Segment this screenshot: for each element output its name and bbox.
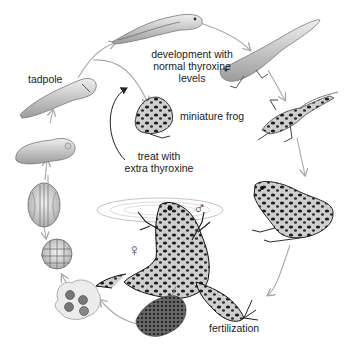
frog-life-cycle-diagram: tadpole development with normal thyroxin… <box>0 0 346 354</box>
arrow-older-to-legs <box>200 23 250 50</box>
stage-morula <box>42 239 72 269</box>
arrow-adult-to-mating <box>268 245 290 295</box>
label-treat-line1: treat with <box>120 150 198 162</box>
stage-neurula <box>28 183 60 227</box>
label-development: development with normal thyroxine levels <box>133 48 251 84</box>
stage-miniature-frog <box>135 97 172 138</box>
arrow-legs-to-froglet <box>268 70 285 100</box>
label-tadpole: tadpole <box>28 73 62 85</box>
arrow-neurula-to-early-tadpole <box>45 160 47 180</box>
arrow-froglet-to-adult <box>297 138 305 175</box>
arrow-eggmass-to-cleavage <box>100 300 140 325</box>
arrow-early-to-tadpole <box>50 110 53 123</box>
label-development-line3: levels <box>133 72 251 84</box>
arrow-tadpole-to-older <box>78 43 115 78</box>
stage-early-tadpole <box>16 138 75 163</box>
label-miniature-frog: miniature frog <box>180 110 244 122</box>
label-development-line2: normal thyroxine <box>133 60 251 72</box>
stage-adult-frog <box>252 181 333 242</box>
label-fertilization: fertilization <box>209 322 259 334</box>
male-symbol-icon: ♂ <box>193 200 206 217</box>
arrow-cleavage-to-morula <box>44 226 46 238</box>
female-symbol-icon: ♀ <box>128 242 141 259</box>
stage-older-tadpole <box>112 14 202 44</box>
stage-froglet-with-tail <box>258 92 338 142</box>
label-development-line1: development with <box>133 48 251 60</box>
label-treat: treat with extra thyroxine <box>120 150 198 174</box>
label-treat-line2: extra thyroxine <box>120 162 198 174</box>
stage-cleavage-4cell <box>55 280 100 320</box>
